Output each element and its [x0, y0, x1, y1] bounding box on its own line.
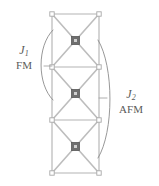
corner-site	[50, 171, 54, 175]
corner-site	[97, 118, 101, 122]
coupling-subscript-j1: 1	[25, 49, 29, 58]
corner-site	[50, 65, 54, 69]
corner-site	[97, 65, 101, 69]
coupling-symbol-j1: J1	[7, 44, 41, 59]
lattice-center-sites	[72, 37, 80, 151]
coupling-type-j2: AFM	[108, 103, 154, 115]
center-site-3	[72, 143, 80, 151]
corner-site	[50, 12, 54, 16]
corner-site	[50, 118, 54, 122]
lattice-diagram: J1 FM J2 AFM	[0, 0, 159, 186]
center-site-2	[72, 90, 80, 98]
coupling-subscript-j2: 2	[132, 93, 136, 102]
coupling-label-j2: J2 AFM	[108, 88, 154, 116]
coupling-label-j1: J1 FM	[7, 44, 41, 72]
coupling-type-j1: FM	[7, 59, 41, 71]
corner-site	[97, 12, 101, 16]
corner-site	[97, 171, 101, 175]
center-site-1	[72, 37, 80, 45]
coupling-symbol-j2: J2	[108, 88, 154, 103]
